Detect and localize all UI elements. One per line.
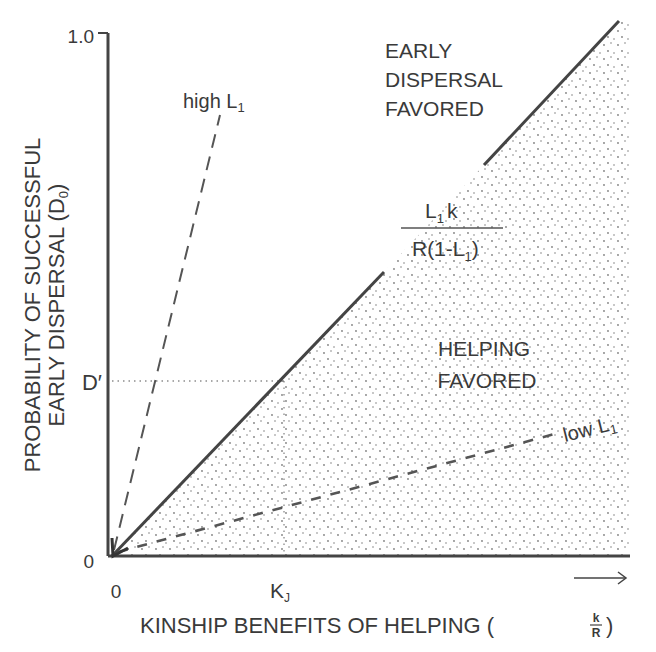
y-axis-label-line1: PROBABILITY OF SUCCESSFUL (20, 138, 45, 473)
y-tick-dprime: D′ (82, 370, 102, 395)
y-tick-zero: 0 (83, 551, 94, 572)
x-axis-label-den: R (592, 626, 601, 640)
high-l1-label: high L1 (183, 90, 245, 115)
x-tick-zero: 0 (111, 581, 122, 602)
y-axis-label-line2: EARLY DISPERSAL (D0) (44, 184, 71, 427)
y-tick-top: 1.0 (68, 26, 94, 47)
x-axis-label: KINSHIP BENEFITS OF HELPING ( (140, 613, 495, 638)
x-tick-kj: KJ (270, 579, 290, 605)
x-axis-label-num: k (593, 611, 600, 625)
early-dispersal-label: EARLY DISPERSAL FAVORED (385, 39, 508, 120)
x-axis-label-close: ) (606, 613, 613, 638)
y-axis-label: PROBABILITY OF SUCCESSFUL EARLY DISPERSA… (20, 138, 71, 473)
chart: 1.0 D′ 0 0 KJ KINSHIP BENEFITS OF HELPIN… (0, 0, 656, 652)
